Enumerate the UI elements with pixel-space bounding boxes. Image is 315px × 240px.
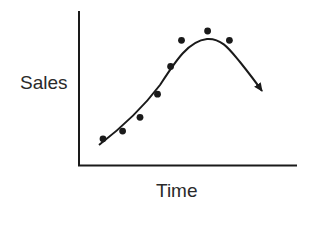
data-point	[226, 37, 233, 44]
x-axis-label: Time	[156, 181, 198, 200]
data-point	[119, 128, 126, 135]
y-axis-label: Sales	[20, 73, 68, 92]
data-point	[100, 135, 107, 142]
data-point	[167, 63, 174, 70]
data-point	[137, 114, 144, 121]
data-points	[100, 28, 233, 143]
data-point	[204, 28, 211, 35]
data-point	[154, 91, 161, 98]
data-point	[178, 37, 185, 44]
